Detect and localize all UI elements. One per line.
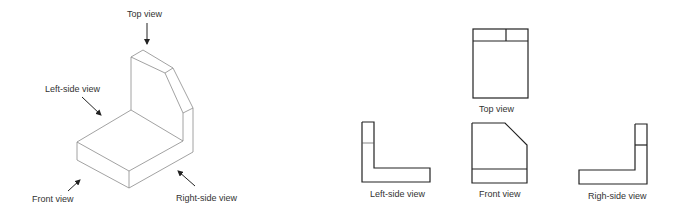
iso-left-side-view-label: Left-side view [45,84,101,94]
base-front-face [77,142,129,188]
chamfer-face [165,68,193,113]
ortho-front-view [472,123,527,183]
iso-top-view-label: Top view [127,9,163,19]
ortho-top-view-label: Top view [479,104,515,114]
front-view-arrow-icon [68,180,80,191]
ortho-left-side-view [362,122,430,182]
ortho-left-side-view-label: Left-side view [370,189,426,199]
ortho-right-side-view-label: Righ-side view [588,191,647,201]
ortho-right-side-view [579,124,647,184]
ortho-top-view [473,29,528,98]
iso-right-side-view-label: Right-side view [176,193,238,203]
right-side-view-arrow-icon [178,171,195,186]
base-top-face [77,110,183,171]
back-wall-top [131,50,173,73]
left-side-view-arrow-icon [82,97,101,115]
multiview-diagram: Top view Left-side view Front view Right… [0,0,682,221]
base-right-edge [129,152,193,188]
isometric-object [77,50,193,188]
ortho-front-view-label: Front view [479,189,521,199]
iso-front-view-label: Front view [32,194,74,204]
